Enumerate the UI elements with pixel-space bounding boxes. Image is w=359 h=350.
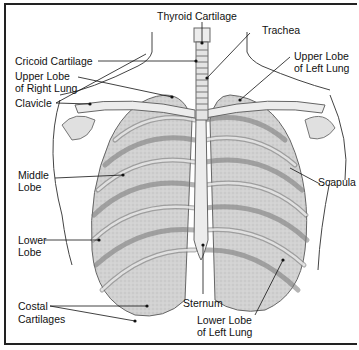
label-middle-lobe-line1: Middle	[18, 169, 49, 181]
label-sternum: Sternum	[183, 297, 223, 309]
label-thyroid-cartilage: Thyroid Cartilage	[157, 10, 237, 22]
label-lower-lobe-line1: Lower	[18, 234, 47, 246]
label-costal-cartilages-line1: Costal	[18, 300, 48, 312]
label-clavicle: Clavicle	[15, 97, 52, 109]
label-upper-lobe-left-line1: Upper Lobe	[294, 50, 349, 62]
label-lower-lobe-line2: Lobe	[18, 246, 41, 258]
label-upper-lobe-right-line2: of Right Lung	[15, 82, 77, 94]
label-upper-lobe-right-line1: Upper Lobe	[15, 70, 70, 82]
label-trachea: Trachea	[262, 24, 300, 36]
label-costal-cartilages-line2: Cartilages	[18, 313, 65, 325]
label-upper-lobe-left-line2: of Left Lung	[294, 62, 349, 74]
label-middle-lobe-line2: Lobe	[18, 181, 41, 193]
label-cricoid-cartilage: Cricoid Cartilage	[15, 55, 93, 67]
label-lower-lobe-left-line2: of Left Lung	[197, 326, 252, 338]
sternum	[194, 118, 208, 260]
label-scapula: Scapula	[318, 176, 356, 188]
label-lower-lobe-left-line1: Lower Lobe	[197, 314, 252, 326]
